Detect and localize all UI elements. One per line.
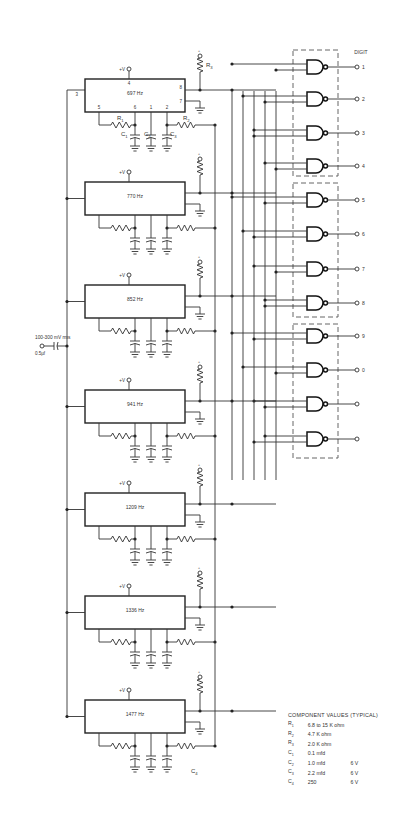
junction-dot xyxy=(65,197,68,200)
component-value: 1.0 mfd xyxy=(300,759,351,769)
tone-decoder-stage: 1477 Hz+V+C4 xyxy=(65,670,232,776)
ground-icon xyxy=(130,348,140,357)
inverter-bubble-icon xyxy=(324,437,328,441)
terminal-icon xyxy=(198,365,202,369)
inverter-bubble-icon xyxy=(324,232,328,236)
nand-gate xyxy=(307,193,328,207)
junction-dot xyxy=(274,270,277,273)
digit-output-row: 4 xyxy=(263,159,365,173)
junction-dot xyxy=(263,304,266,307)
supply-label: +V xyxy=(119,170,125,175)
inverter-bubble-icon xyxy=(324,301,328,305)
component-rating: 6 V xyxy=(350,768,364,778)
pin-label: 3 xyxy=(75,92,78,97)
supply-label: +V xyxy=(119,378,125,383)
terminal-icon xyxy=(355,267,359,271)
digit-output-row: 2 xyxy=(241,92,365,106)
junction-dot xyxy=(65,300,68,303)
junction-dot xyxy=(230,709,233,712)
terminal-icon xyxy=(198,54,202,58)
tone-decoder-stage: 1336 Hz+V+ xyxy=(65,566,232,668)
ground-icon xyxy=(162,763,172,772)
junction-dot xyxy=(252,128,255,131)
ground-icon xyxy=(146,556,156,565)
junction-dot xyxy=(230,88,233,91)
inverter-bubble-icon xyxy=(324,198,328,202)
capacitor-icon xyxy=(162,750,172,772)
plus-label: + xyxy=(198,152,200,156)
tone-frequency-label: 697 Hz xyxy=(127,90,143,96)
inverter-bubble-icon xyxy=(324,97,328,101)
capacitor-icon xyxy=(130,543,140,565)
nand-gate xyxy=(307,92,328,106)
junction-dot xyxy=(65,344,68,347)
terminal-icon xyxy=(127,378,131,382)
component-rating xyxy=(350,739,364,749)
ground-icon xyxy=(146,142,156,151)
junction-dot xyxy=(241,94,244,97)
terminal-icon xyxy=(198,260,202,264)
ground-icon xyxy=(146,245,156,254)
component-ref: C4 xyxy=(288,778,300,788)
coupling-capacitor-label: 0.5µf xyxy=(35,351,46,356)
component-values-list: R16.8 to 15 K ohmR24.7 K ohmR32.0 K ohmC… xyxy=(288,720,364,787)
signal-input: 100-300 mV rms0.5µf xyxy=(35,335,71,356)
nand-gate-body xyxy=(307,60,323,74)
component-value-row: C21.0 mfd6 V xyxy=(288,759,364,769)
component-rating xyxy=(350,749,364,759)
ground-icon xyxy=(162,245,172,254)
junction-dot xyxy=(230,399,233,402)
terminal-icon xyxy=(355,368,359,372)
r3-label: R3 xyxy=(206,62,213,70)
junction-dot xyxy=(263,298,266,301)
nand-gate xyxy=(307,329,328,343)
inverter-bubble-icon xyxy=(324,368,328,372)
resistor-icon xyxy=(177,743,195,749)
tone-frequency-label: 1477 Hz xyxy=(126,711,145,717)
c1-label: C1 xyxy=(121,131,128,139)
resistor-icon xyxy=(197,264,203,278)
capacitor-icon xyxy=(130,232,140,254)
inverter-bubble-icon xyxy=(324,164,328,168)
digit-label: 7 xyxy=(362,266,365,272)
component-ref: R1 xyxy=(288,720,300,730)
ground-icon xyxy=(146,659,156,668)
ground-icon xyxy=(146,763,156,772)
capacitor-icon xyxy=(162,232,172,254)
terminal-icon xyxy=(355,301,359,305)
resistor-icon xyxy=(177,639,195,645)
junction-dot xyxy=(274,167,277,170)
tone-decoder-stage: 697 Hz+V+48735612R1C1C2C3R2R3 xyxy=(75,49,232,151)
ground-icon xyxy=(146,453,156,462)
tone-decoder-ic xyxy=(85,285,185,318)
component-values-title: COMPONENT VALUES (TYPICAL) xyxy=(288,712,378,718)
terminal-icon xyxy=(127,273,131,277)
junction-dot xyxy=(230,605,233,608)
resistor-icon xyxy=(177,122,195,128)
nand-gate-body xyxy=(307,159,323,173)
supply-label: +V xyxy=(119,688,125,693)
resistor-icon xyxy=(111,122,131,128)
r2-label: R2 xyxy=(183,115,190,123)
digit-output-row xyxy=(252,397,359,411)
plus-label: + xyxy=(198,463,200,467)
resistor-icon xyxy=(197,472,203,486)
terminal-icon xyxy=(355,402,359,406)
component-value-row: R24.7 K ohm xyxy=(288,730,364,740)
component-value: 0.1 mfd xyxy=(300,749,351,759)
nand-gate-body xyxy=(307,363,323,377)
capacitor-icon xyxy=(146,543,156,565)
terminal-icon xyxy=(355,198,359,202)
capacitor-icon xyxy=(130,646,140,668)
nand-gate-body xyxy=(307,397,323,411)
capacitor-icon xyxy=(162,440,172,462)
tone-decoder-stage: 941 Hz+V+ xyxy=(65,360,232,462)
nand-gate-body xyxy=(307,193,323,207)
nand-gate xyxy=(307,227,328,241)
junction-dot xyxy=(252,264,255,267)
c2-label: C2 xyxy=(144,131,151,139)
c4-label: C4 xyxy=(191,768,198,776)
resistor-icon xyxy=(197,679,203,693)
nand-gate-body xyxy=(307,227,323,241)
junction-dot xyxy=(230,195,233,198)
